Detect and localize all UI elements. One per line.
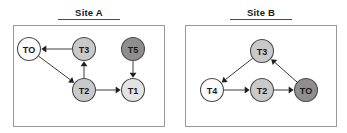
arrow-head-icon [289,87,294,94]
arrow-head-icon [81,61,88,66]
node-circle[interactable] [122,79,145,102]
node-A-T1[interactable]: T1 [122,79,145,102]
node-circle[interactable] [251,40,274,63]
arrow-head-icon [68,77,74,83]
edge-A-T2-to-A-T3 [81,61,88,78]
node-B-TO[interactable]: TO [295,79,318,102]
edge-line [39,56,71,79]
node-circle[interactable] [122,38,145,61]
arrow-head-icon [222,77,228,83]
arrow-head-icon [130,73,137,78]
node-A-T3[interactable]: T3 [73,38,96,61]
node-circle[interactable] [18,38,41,61]
edge-B-TO-to-B-T3 [271,59,297,82]
node-A-T2[interactable]: T2 [73,79,96,102]
arrow-head-icon [245,87,250,94]
node-A-T5[interactable]: T5 [122,38,145,61]
edge-line [226,58,253,79]
node-A-TO[interactable]: TO [18,38,41,61]
edge-A-T5-to-A-T1 [130,61,137,78]
node-B-T4[interactable]: T4 [201,79,224,102]
node-B-T2[interactable]: T2 [251,79,274,102]
node-circle[interactable] [251,79,274,102]
edge-A-T2-to-A-T1 [96,87,121,94]
node-circle[interactable] [295,79,318,102]
arrow-head-icon [41,46,46,53]
graph-layer: TOT3T5T2T1T3T4T2TO [0,0,347,133]
edge-line [275,62,297,82]
edge-A-TO-to-A-T2 [39,56,75,82]
edge-B-T4-to-B-T2 [224,87,250,94]
edge-B-T3-to-B-T4 [222,58,253,82]
node-B-T3[interactable]: T3 [251,40,274,63]
edge-A-T3-to-A-TO [41,46,72,53]
node-circle[interactable] [73,38,96,61]
node-circle[interactable] [73,79,96,102]
edge-B-T2-to-B-TO [274,87,294,94]
node-circle[interactable] [201,79,224,102]
arrow-head-icon [116,87,121,94]
transition-graph-figure: Site A Site B TOT3T5T2T1T3T4T2TO [0,0,347,133]
